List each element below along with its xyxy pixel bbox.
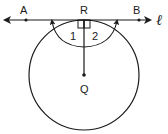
label-R: R: [80, 4, 88, 16]
right-angle-mark-left: [78, 20, 84, 28]
angle-arc-right: [84, 21, 117, 47]
point-B: [137, 18, 140, 21]
label-angle-2: 2: [92, 30, 98, 42]
point-A: [24, 18, 27, 21]
label-B: B: [133, 4, 140, 16]
label-A: A: [20, 4, 28, 16]
point-Q: [82, 73, 86, 77]
label-Q: Q: [80, 83, 89, 95]
geometry-diagram: A R B ℓ 1 2 Q: [0, 0, 168, 134]
label-angle-1: 1: [70, 30, 76, 42]
label-line-l: ℓ: [156, 12, 162, 28]
right-angle-mark-right: [84, 20, 90, 28]
angle-arc-left: [52, 21, 84, 47]
